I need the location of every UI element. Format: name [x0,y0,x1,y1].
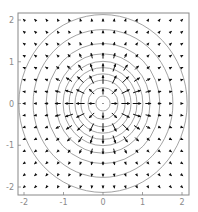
vector-arrow [102,148,105,154]
vector-arrow [158,90,162,93]
vector-arrow [34,55,37,58]
vector-arrow [180,90,183,93]
vector-arrow [91,185,94,188]
vector-arrow [102,174,105,177]
vector-arrow [45,137,48,140]
vector-arrow [33,102,36,105]
vector-arrow [23,185,26,188]
vector-arrow [124,149,127,153]
vector-arrow [180,55,183,58]
vector-arrow [68,42,71,45]
y-tick-label: 2 [9,16,14,25]
vector-arrow [169,149,172,152]
vector-arrow [55,78,59,81]
vector-arrow [158,114,162,117]
vector-arrow [44,90,48,93]
vector-arrow [57,19,60,22]
vector-arrow [124,162,127,165]
y-tick-label: -2 [6,183,14,192]
vector-arrow [113,162,116,166]
vector-arrow [46,19,49,22]
vector-arrow [124,53,127,57]
vector-arrow [102,88,105,94]
vector-arrow [169,185,172,188]
vector-arrow [57,173,60,176]
vector-arrow [45,126,48,129]
vector-arrow [46,185,49,188]
vector-arrow [55,126,59,129]
vector-arrow [102,52,105,58]
vector-arrow [34,185,37,188]
vector-arrow [157,173,160,176]
vector-arrow [45,67,48,70]
vector-arrow [146,126,150,129]
vector-arrow [169,19,172,22]
vector-arrow [157,43,160,46]
vector-arrow [169,161,172,164]
vector-arrow [80,42,83,45]
vector-arrow [135,161,138,164]
x-tick-label: -2 [20,198,28,207]
vector-arrow [22,102,25,105]
vector-arrow [91,162,94,166]
vector-arrow [23,43,26,46]
vector-arrow [45,161,48,164]
vector-arrow [102,30,105,33]
y-tick-label: 0 [9,100,14,109]
vector-arrow [102,112,105,118]
vector-arrow [111,102,117,105]
vector-arrow [55,90,61,93]
vector-arrow [180,19,183,22]
vector-arrow [146,54,149,57]
vector-arrow [180,173,183,176]
vector-arrow [79,149,82,153]
vector-arrow [23,55,26,58]
vector-arrow [135,173,138,176]
vector-arrow [146,173,149,176]
vector-arrow [79,185,82,188]
vector-arrow [22,126,25,129]
vector-arrow [113,42,116,46]
vector-arrow [158,126,161,129]
vector-arrow [57,31,60,34]
vector-arrow [146,19,149,22]
vector-arrow [88,102,94,105]
vector-arrow [79,18,82,21]
vector-arrow [91,42,94,46]
vector-arrow [90,149,93,155]
vector-arrow [113,185,116,188]
vector-arrow [169,55,172,58]
vector-arrow [45,173,48,176]
vector-arrow [169,67,172,70]
vector-arrow [34,161,37,164]
vector-arrow [102,123,105,132]
vector-arrow [45,31,48,34]
vector-arrow [90,53,93,59]
vector-arrow [158,79,161,82]
y-tick-label: 1 [9,58,14,67]
vector-arrow [157,31,160,34]
x-axis-ticks: -2-1012 [20,192,185,207]
x-tick-label: -1 [60,198,68,207]
vector-arrow [102,75,105,84]
vector-arrow [146,78,150,81]
vector-arrow [180,43,183,46]
vector-arrow [180,185,183,188]
vector-arrow [23,19,26,22]
vector-arrow [157,161,160,164]
vector-field-arrows [22,18,183,188]
vector-arrow [146,185,149,188]
vector-arrow [113,53,116,59]
vector-arrow [44,114,48,117]
vector-arrow [91,18,94,21]
vector-arrow [34,137,37,140]
vector-arrow [57,54,60,57]
vector-arrow [34,149,37,152]
vector-arrow [79,53,82,57]
vector-arrow [169,137,172,140]
vector-arrow [102,103,103,104]
vector-arrow [157,185,160,188]
quiver-contour-plot: -2-1012 -2-1012 [0,0,198,212]
x-tick-label: 2 [179,198,184,207]
vector-arrow [23,161,26,164]
